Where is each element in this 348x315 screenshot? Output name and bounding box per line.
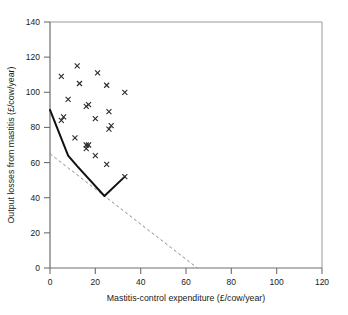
x-tick-label-20: 20 <box>91 277 101 287</box>
y-axis-title: Output losses from mastitis (£/cow/year) <box>6 66 16 223</box>
scatter-plot: 0 20 40 60 80 100 120 140 0 20 40 60 80 … <box>0 0 348 315</box>
x-tick-label-60: 60 <box>181 277 191 287</box>
x-tick-label-100: 100 <box>270 277 284 287</box>
y-tick-label-80: 80 <box>31 122 41 132</box>
y-tick-label-140: 140 <box>26 17 40 27</box>
x-tick-label-120: 120 <box>315 277 329 287</box>
x-axis-title: Mastitis-control expenditure (£/cow/year… <box>107 293 265 303</box>
x-tick-label-80: 80 <box>227 277 237 287</box>
y-tick-label-40: 40 <box>31 193 41 203</box>
y-tick-label-0: 0 <box>35 263 40 273</box>
y-tick-label-120: 120 <box>26 52 40 62</box>
chart-figure: 0 20 40 60 80 100 120 140 0 20 40 60 80 … <box>0 0 348 315</box>
y-tick-label-20: 20 <box>31 228 41 238</box>
x-tick-label-0: 0 <box>48 277 53 287</box>
y-tick-label-60: 60 <box>31 158 41 168</box>
y-tick-label-100: 100 <box>26 87 40 97</box>
x-tick-label-40: 40 <box>136 277 146 287</box>
